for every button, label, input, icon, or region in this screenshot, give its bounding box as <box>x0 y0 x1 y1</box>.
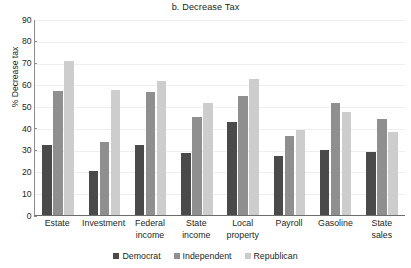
bar-group <box>35 20 81 215</box>
bar-democrat-local-property <box>227 122 237 215</box>
bar-republican-estate <box>64 61 74 215</box>
x-axis-label-local-property: Localproperty <box>220 218 266 241</box>
y-axis-tick-label: 30 <box>22 146 34 155</box>
plot-area <box>34 20 405 216</box>
x-axis-label-line: Gasoline <box>312 218 358 230</box>
x-axis-label-line: Estate <box>34 218 80 230</box>
y-axis-tick-label: 20 <box>22 168 34 177</box>
bar-republican-gasoline <box>342 112 352 215</box>
bar-independent-federal-income <box>146 92 156 215</box>
x-axis-label-investment: Investment <box>80 218 126 241</box>
bar-group <box>359 20 405 215</box>
bar-group <box>174 20 220 215</box>
y-axis-tick-label: 10 <box>22 190 34 199</box>
bar-democrat-federal-income <box>135 145 145 215</box>
bar-independent-state-sales <box>377 119 387 215</box>
x-axis-label-federal-income: Federalincome <box>127 218 173 241</box>
x-axis-labels: EstateInvestmentFederalincomeStateincome… <box>34 218 405 241</box>
x-axis-label-line: Payroll <box>266 218 312 230</box>
y-axis-tick-label: 50 <box>22 103 34 112</box>
bar-group <box>313 20 359 215</box>
bar-group <box>220 20 266 215</box>
x-axis-label-line: State <box>173 218 219 230</box>
legend-label: Independent <box>183 252 232 261</box>
y-axis-tick-label: 70 <box>22 59 34 68</box>
chart-title: b. Decrease Tax <box>0 2 411 12</box>
x-axis-label-line: Local <box>220 218 266 230</box>
bar-democrat-estate <box>42 145 52 215</box>
y-axis-ticks: 9080706050403020100 <box>0 20 34 216</box>
y-axis-tick-label: 0 <box>27 212 34 221</box>
x-axis-label-estate: Estate <box>34 218 80 241</box>
x-axis-label-line: income <box>127 230 173 242</box>
bars-layer <box>35 20 405 215</box>
bar-independent-local-property <box>238 96 248 215</box>
legend-swatch-icon <box>245 253 251 259</box>
chart-legend: DemocratIndependentRepublican <box>0 252 411 261</box>
bar-republican-state-sales <box>388 132 398 215</box>
x-axis-label-state-income: Stateincome <box>173 218 219 241</box>
bar-democrat-payroll <box>274 156 284 215</box>
bar-democrat-state-sales <box>366 152 376 215</box>
y-axis-tick-label: 60 <box>22 81 34 90</box>
bar-republican-investment <box>111 90 121 215</box>
y-axis-tick-label: 90 <box>22 16 34 25</box>
bar-republican-payroll <box>296 130 306 215</box>
bar-group <box>128 20 174 215</box>
legend-item-democrat[interactable]: Democrat <box>113 252 160 261</box>
bar-republican-state-income <box>203 103 213 215</box>
legend-label: Democrat <box>122 252 160 261</box>
bar-democrat-investment <box>89 171 99 215</box>
bar-democrat-state-income <box>181 153 191 215</box>
x-axis-label-line: State <box>359 218 405 230</box>
bar-republican-federal-income <box>157 81 167 215</box>
legend-swatch-icon <box>174 253 180 259</box>
legend-swatch-icon <box>113 253 119 259</box>
x-axis-label-line: Investment <box>80 218 126 230</box>
bar-group <box>266 20 312 215</box>
bar-independent-investment <box>100 142 110 215</box>
x-axis-label-payroll: Payroll <box>266 218 312 241</box>
legend-item-independent[interactable]: Independent <box>174 252 232 261</box>
bar-independent-state-income <box>192 117 202 215</box>
bar-chart: b. Decrease Tax % Decrease tax 908070605… <box>0 0 411 268</box>
bar-independent-gasoline <box>331 103 341 215</box>
bar-independent-estate <box>53 91 63 215</box>
legend-label: Republican <box>254 252 298 261</box>
bar-democrat-gasoline <box>320 150 330 215</box>
y-axis-tick-label: 80 <box>22 37 34 46</box>
x-axis-label-line: Federal <box>127 218 173 230</box>
bar-group <box>81 20 127 215</box>
bar-independent-payroll <box>285 136 295 215</box>
y-axis-tick-label: 40 <box>22 124 34 133</box>
x-axis-label-state-sales: Statesales <box>359 218 405 241</box>
x-axis-label-gasoline: Gasoline <box>312 218 358 241</box>
bar-republican-local-property <box>249 79 259 215</box>
x-axis-label-line: sales <box>359 230 405 242</box>
x-axis-label-line: income <box>173 230 219 242</box>
x-axis-label-line: property <box>220 230 266 242</box>
legend-item-republican[interactable]: Republican <box>245 252 298 261</box>
